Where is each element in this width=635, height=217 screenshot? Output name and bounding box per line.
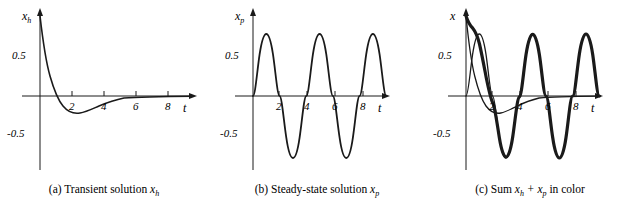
ytick-a-1: -0.5 (7, 127, 25, 139)
curve-sum-c (466, 16, 599, 158)
axis-label-x-a: t (183, 101, 187, 115)
xtick-c-3: 8 (573, 100, 579, 112)
caption-a: (a) Transient solution xh (0, 182, 208, 201)
xtick-a-0: 2 (69, 100, 75, 112)
axis-label-y-a: xh (21, 9, 31, 25)
xtick-a-2: 6 (133, 100, 139, 112)
ytick-b-0: 0.5 (225, 49, 239, 61)
xtick-c-2: 6 (545, 100, 551, 112)
caption-c-suffix2: in color (547, 183, 585, 195)
curve-transient-a (40, 16, 193, 113)
caption-c-suffix: + x (524, 183, 543, 195)
axis-x-b (235, 93, 390, 99)
xtick-b-0: 2 (276, 100, 282, 112)
plot-c: x t 0.5 -0.5 2 4 6 8 (426, 4, 634, 176)
caption-b-sub: p (375, 189, 379, 198)
caption-a-prefix: (a) Transient solution (49, 183, 150, 195)
x-ticks-a (72, 91, 168, 96)
panel-b: xp t 0.5 -0.5 2 4 6 8 (b) Steady-state s… (213, 0, 421, 217)
xtick-a-1: 4 (101, 100, 107, 112)
axis-label-x-b: t (378, 101, 382, 115)
ytick-c-1: -0.5 (433, 127, 451, 139)
ytick-b-1: -0.5 (220, 127, 238, 139)
xtick-c-1: 4 (517, 100, 523, 112)
figure-container: xh t 0.5 -0.5 2 4 6 8 (a) Transient solu… (0, 0, 635, 217)
caption-c-prefix: (c) Sum (475, 183, 515, 195)
panel-c: x t 0.5 -0.5 2 4 6 8 (c) Sum xh + xp in … (426, 0, 634, 217)
axis-label-y-c: x (449, 9, 456, 23)
panel-a: xh t 0.5 -0.5 2 4 6 8 (a) Transient solu… (0, 0, 208, 217)
axis-label-y-b: xp (234, 9, 244, 25)
plot-a: xh t 0.5 -0.5 2 4 6 8 (0, 4, 208, 176)
xtick-a-3: 8 (165, 100, 171, 112)
xtick-b-3: 8 (360, 100, 366, 112)
ytick-c-0: 0.5 (438, 49, 452, 61)
x-ticks-c (492, 91, 576, 96)
caption-c: (c) Sum xh + xp in color (426, 182, 634, 201)
plot-b: xp t 0.5 -0.5 2 4 6 8 (213, 4, 421, 176)
axis-label-x-c: t (591, 101, 595, 115)
xtick-b-1: 4 (304, 100, 310, 112)
xtick-b-2: 6 (332, 100, 338, 112)
x-ticks-b (279, 91, 363, 96)
ytick-a-0: 0.5 (12, 49, 26, 61)
caption-a-sub: h (155, 189, 159, 198)
caption-b-prefix: (b) Steady-state solution (255, 183, 370, 195)
xtick-c-0: 2 (489, 100, 495, 112)
caption-b: (b) Steady-state solution xp (213, 182, 421, 201)
